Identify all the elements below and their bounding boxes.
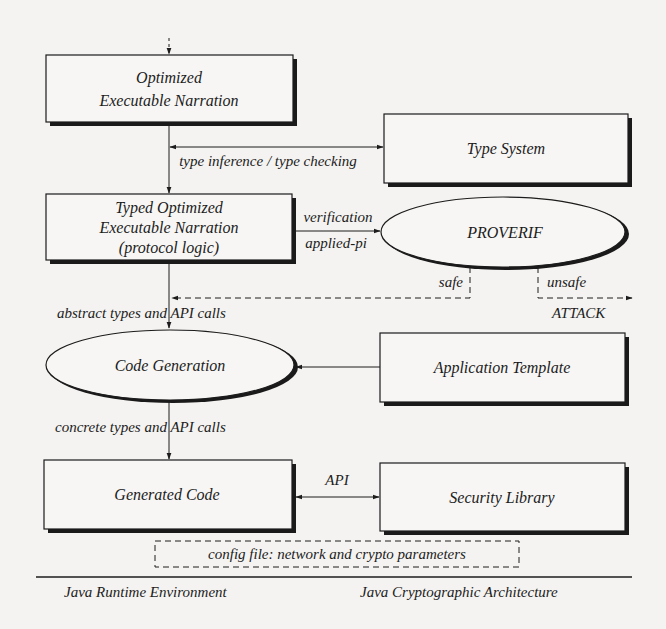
type-inference-label: type inference / type checking bbox=[179, 153, 357, 169]
node-proverif: PROVERIF bbox=[381, 197, 629, 270]
node-label: Application Template bbox=[433, 359, 571, 377]
applied-pi-label: applied-pi bbox=[305, 235, 367, 251]
node-label: Generated Code bbox=[114, 486, 219, 503]
abstract-types-label: abstract types and API calls bbox=[57, 305, 226, 321]
safe-arrow bbox=[172, 267, 470, 298]
architecture-diagram: Optimized Executable Narration Type Syst… bbox=[0, 0, 666, 629]
node-label: (protocol logic) bbox=[119, 239, 219, 257]
attack-label: ATTACK bbox=[551, 305, 606, 321]
node-type-system: Type System bbox=[384, 114, 632, 187]
node-typed-narration: Typed Optimized Executable Narration (pr… bbox=[46, 194, 296, 264]
node-label: Typed Optimized bbox=[115, 199, 224, 217]
node-generated-code: Generated Code bbox=[44, 460, 296, 533]
node-label: PROVERIF bbox=[466, 224, 543, 241]
footer-left-label: Java Runtime Environment bbox=[64, 584, 228, 600]
node-label: Code Generation bbox=[115, 357, 226, 374]
node-label: config file: network and crypto paramete… bbox=[208, 546, 466, 562]
safe-label: safe bbox=[439, 274, 464, 290]
node-label: Security Library bbox=[449, 489, 555, 507]
node-code-generation: Code Generation bbox=[46, 330, 298, 403]
api-label: API bbox=[324, 472, 349, 488]
node-application-template: Application Template bbox=[380, 333, 629, 406]
node-security-library: Security Library bbox=[380, 463, 629, 535]
node-label: Executable Narration bbox=[98, 219, 238, 236]
node-label: Optimized bbox=[136, 69, 203, 87]
node-label: Executable Narration bbox=[98, 92, 238, 109]
node-label: Type System bbox=[467, 140, 545, 158]
verification-label: verification bbox=[303, 209, 372, 225]
footer-right-label: Java Cryptographic Architecture bbox=[360, 584, 558, 600]
concrete-types-label: concrete types and API calls bbox=[55, 419, 226, 435]
node-config-file: config file: network and crypto paramete… bbox=[155, 541, 519, 567]
node-optimized-narration: Optimized Executable Narration bbox=[46, 55, 297, 126]
unsafe-label: unsafe bbox=[547, 274, 587, 290]
